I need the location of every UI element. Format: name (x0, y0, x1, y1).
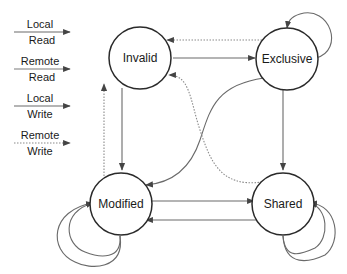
state-shared: Shared (252, 173, 314, 235)
state-shared-label: Shared (264, 197, 303, 211)
state-modified-label: Modified (98, 197, 143, 211)
legend-remote-read: Remote Read (14, 55, 70, 83)
edge-exclusive-to-modified (146, 78, 264, 185)
state-invalid-label: Invalid (123, 51, 158, 65)
legend-remote-write-line2: Write (27, 145, 52, 157)
legend-remote-read-line2: Read (29, 71, 55, 83)
state-modified: Modified (90, 173, 152, 235)
legend-local-write: Local Write (14, 92, 70, 120)
legend-local-write-line2: Write (27, 108, 52, 120)
legend-local-read-line1: Local (27, 18, 53, 30)
legend-remote-write-line1: Remote (21, 129, 60, 141)
legend-remote-write: Remote Write (14, 129, 70, 157)
legend-local-write-line1: Local (27, 92, 53, 104)
legend-remote-read-line1: Remote (21, 55, 60, 67)
mesi-state-diagram: Local Read Remote Read Local Write Remot… (0, 0, 347, 274)
legend: Local Read Remote Read Local Write Remot… (14, 18, 70, 157)
legend-local-read-line2: Read (29, 34, 55, 46)
state-exclusive-label: Exclusive (262, 52, 313, 66)
legend-local-read: Local Read (14, 18, 70, 46)
edge-shared-to-invalid (169, 75, 262, 183)
state-exclusive: Exclusive (256, 28, 318, 90)
state-invalid: Invalid (109, 27, 171, 89)
